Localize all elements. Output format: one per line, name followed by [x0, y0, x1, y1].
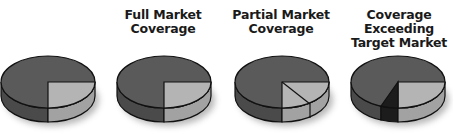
pie-target-market: [1, 56, 99, 126]
pie-diagram: [0, 0, 453, 139]
pie-partial-market-coverage: [235, 56, 333, 126]
pie-full-market-coverage: [117, 56, 215, 126]
pie-coverage-exceeding-target-market: [351, 56, 449, 126]
